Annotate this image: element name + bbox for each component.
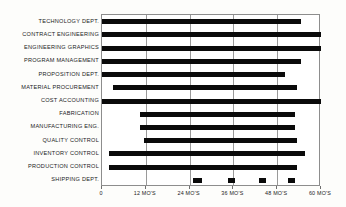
category-label: FABRICATION — [0, 110, 99, 116]
tick-mark — [101, 186, 102, 189]
tick-mark — [189, 186, 190, 189]
x-tick-label: 60 MO'S — [309, 190, 331, 196]
gantt-bar — [102, 72, 285, 77]
gantt-bar — [102, 59, 301, 64]
tick-mark — [320, 186, 321, 189]
gantt-bar — [109, 151, 304, 156]
category-label: PROGRAM MANAGEMENT — [0, 57, 99, 63]
category-label: SHIPPING DEPT. — [0, 176, 99, 182]
category-label: COST ACCOUNTING — [0, 97, 99, 103]
gantt-chart: TECHNOLOGY DEPT.CONTRACT ENGINEERINGENGI… — [0, 0, 346, 207]
category-label: CONTRACT ENGINEERING — [0, 31, 99, 37]
gantt-bar — [140, 125, 295, 130]
milestone-block — [193, 178, 202, 183]
x-tick-label: 0 — [99, 190, 102, 196]
category-label: QUALITY CONTROL — [0, 137, 99, 143]
tick-mark — [232, 186, 233, 189]
tick-mark — [145, 186, 146, 189]
gantt-bar — [140, 112, 295, 117]
x-tick-label: 12 MO'S — [134, 190, 156, 196]
category-label: PRODUCTION CONTROL — [0, 163, 99, 169]
category-label: MATERIAL PROCUREMENT — [0, 84, 99, 90]
category-label: PROPOSITION DEPT. — [0, 71, 99, 77]
gantt-bar — [102, 19, 301, 24]
milestone-block — [259, 178, 266, 183]
gantt-bar — [102, 32, 321, 37]
x-tick-label: 24 MO'S — [177, 190, 199, 196]
milestone-block — [288, 178, 295, 183]
x-tick-label: 48 MO'S — [265, 190, 287, 196]
plot-area — [101, 14, 320, 186]
gantt-bar — [102, 99, 321, 104]
x-tick-label: 36 MO'S — [221, 190, 243, 196]
category-label: INVENTORY CONTROL — [0, 150, 99, 156]
category-label: ENGINEERING GRAPHICS — [0, 44, 99, 50]
milestone-block — [228, 178, 235, 183]
tick-mark — [276, 186, 277, 189]
category-label: TECHNOLOGY DEPT. — [0, 18, 99, 24]
gantt-bar — [113, 85, 297, 90]
gantt-bar — [102, 46, 321, 51]
category-label: MANUFACTURING ENG. — [0, 123, 99, 129]
gantt-bar — [144, 138, 297, 143]
gantt-bar — [109, 165, 297, 170]
